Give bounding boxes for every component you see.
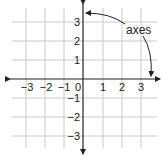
x-tick-labels: −3 −2 −1 1 2 3 0 [21,81,144,93]
y-tick-label: 1 [74,54,80,66]
coordinate-plane-diagram: axes −3 −2 −1 1 2 3 0 3 2 1 −1 −2 −3 [0,0,164,158]
y-tick-label: −2 [67,111,80,123]
axes-annotation: axes [126,23,151,37]
y-tick-label: 2 [74,35,80,47]
y-tick-label: −1 [67,92,80,104]
x-tick-label: −3 [21,81,34,93]
x-tick-label: 2 [119,81,125,93]
x-tick-label: −2 [40,81,53,93]
x-tick-label: 3 [138,81,144,93]
x-tick-label: 1 [100,81,106,93]
y-tick-label: 3 [74,16,80,28]
coordinate-plane-svg: axes −3 −2 −1 1 2 3 0 3 2 1 −1 −2 −3 [0,0,164,158]
y-tick-label: −3 [67,130,80,142]
